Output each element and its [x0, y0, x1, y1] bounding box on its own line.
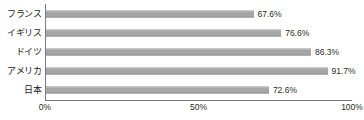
bar-chart: フランス 67.6% イギリス 76.6% ドイツ 86.3% アメリカ 91.…	[0, 0, 364, 120]
bar-row: イギリス 76.6%	[45, 23, 352, 42]
x-tick-label: 50%	[190, 103, 207, 112]
category-label: 日本	[24, 86, 42, 95]
category-label: イギリス	[7, 28, 42, 37]
bar	[46, 68, 328, 75]
bar	[46, 29, 281, 36]
category-label: アメリカ	[7, 67, 42, 76]
value-label: 67.6%	[258, 9, 282, 18]
value-label: 91.7%	[332, 67, 356, 76]
value-label: 76.6%	[285, 29, 309, 38]
value-label: 72.6%	[273, 86, 297, 95]
bar	[46, 48, 311, 55]
bar	[46, 87, 269, 94]
x-tick-label: 0%	[39, 103, 51, 112]
x-tick-label: 100%	[341, 103, 363, 112]
plot-area: フランス 67.6% イギリス 76.6% ドイツ 86.3% アメリカ 91.…	[45, 4, 352, 100]
bar-row: ドイツ 86.3%	[45, 42, 352, 61]
bar	[46, 10, 254, 17]
bar-row: フランス 67.6%	[45, 4, 352, 23]
x-axis-line	[45, 100, 352, 101]
bar-row: 日本 72.6%	[45, 81, 352, 100]
category-label: フランス	[7, 9, 42, 18]
value-label: 86.3%	[315, 48, 339, 57]
category-label: ドイツ	[16, 47, 42, 56]
bar-row: アメリカ 91.7%	[45, 62, 352, 81]
